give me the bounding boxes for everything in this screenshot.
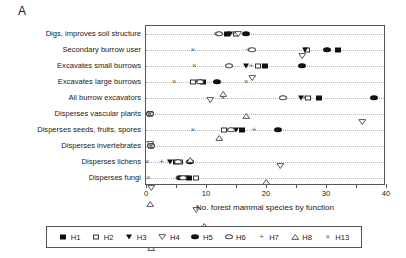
legend-marker-H8	[290, 233, 299, 241]
marker-filled-down-triangle	[126, 235, 132, 240]
data-point-H4	[298, 53, 306, 59]
data-point-H1	[316, 96, 322, 101]
legend-label: H5	[203, 233, 213, 242]
legend-label: H3	[137, 233, 147, 242]
marker-open-square	[93, 235, 99, 240]
gridline-row	[146, 50, 384, 51]
legend-label: H2	[104, 233, 114, 242]
data-point-H7: +	[245, 47, 252, 54]
marker-filled-circle	[191, 234, 199, 239]
legend-item-H3[interactable]: H3	[125, 233, 147, 242]
category-label: Disperses seeds, fruits, spores	[37, 126, 141, 134]
gridline-row	[146, 98, 384, 99]
data-point-H7: +	[301, 95, 308, 102]
legend-marker-H7: +	[257, 233, 266, 241]
data-point-H13: ×	[191, 63, 198, 70]
data-point-H7: +	[248, 63, 255, 70]
legend-label: H4	[170, 233, 180, 242]
data-point-H3	[302, 48, 308, 53]
data-point-H8	[242, 113, 250, 119]
data-point-H2	[221, 128, 227, 133]
legend-marker-H3	[125, 233, 134, 241]
legend-marker-H6	[224, 233, 233, 241]
data-point-H8	[262, 179, 270, 185]
data-point-H5	[213, 79, 221, 84]
chart-legend: H1H2H3H4H5H6+H7H8×H13	[46, 226, 362, 248]
legend-item-H1[interactable]: H1	[59, 233, 81, 242]
gridline-row	[146, 82, 384, 83]
legend-label: H6	[236, 233, 246, 242]
data-point-H5	[370, 95, 378, 100]
category-label: All burrow excavators	[68, 94, 141, 102]
gridline-row	[146, 146, 384, 147]
category-label: Disperses lichens	[81, 158, 141, 166]
scatter-chart: Digs, improves soil structureSecondary b…	[0, 0, 406, 258]
legend-label: H1	[71, 233, 81, 242]
data-point-H13: ×	[146, 111, 153, 118]
legend-marker-H13: ×	[323, 233, 332, 241]
x-axis-tick	[356, 184, 357, 188]
data-point-H13: ×	[219, 95, 226, 102]
data-point-H4	[358, 119, 366, 125]
data-point-H8	[187, 157, 195, 163]
marker-open-down-triangle	[159, 234, 167, 240]
marker-open-up-triangle	[291, 234, 299, 240]
data-point-H8	[215, 135, 223, 141]
data-point-H13: ×	[171, 79, 178, 86]
data-point-H5	[242, 31, 250, 36]
data-point-H3	[167, 160, 173, 165]
legend-marker-H1	[59, 233, 68, 241]
x-axis-tick	[176, 184, 177, 188]
marker-plus: +	[258, 234, 265, 241]
marker-open-circle	[225, 234, 233, 239]
data-point-H7: +	[158, 159, 165, 166]
data-point-H4	[206, 97, 214, 103]
marker-filled-square	[60, 235, 66, 240]
data-point-H7: +	[193, 79, 200, 86]
legend-item-H5[interactable]: H5	[191, 233, 213, 242]
category-label: Disperses invertebrates	[61, 142, 141, 150]
data-point-H1	[262, 64, 268, 69]
category-label: Disperses fungi	[89, 174, 141, 182]
legend-item-H13[interactable]: ×H13	[323, 233, 349, 242]
legend-item-H6[interactable]: H6	[224, 233, 246, 242]
category-label: Excavates large burrows	[58, 78, 141, 86]
data-point-H7: +	[251, 127, 258, 134]
legend-marker-H5	[191, 233, 200, 241]
x-axis-tick	[386, 184, 387, 188]
data-point-H1	[335, 48, 341, 53]
gridline-row	[146, 114, 384, 115]
x-axis-tick	[236, 184, 237, 188]
category-label: Digs, improves soil structure	[46, 30, 141, 38]
legend-item-H7[interactable]: +H7	[257, 233, 279, 242]
legend-marker-H4	[158, 233, 167, 241]
x-axis-tick	[296, 184, 297, 188]
legend-label: H7	[269, 233, 279, 242]
data-point-H4	[277, 163, 285, 169]
x-axis-label: No. forest mammal species by function	[145, 203, 385, 212]
legend-item-H2[interactable]: H2	[92, 233, 114, 242]
data-point-H2	[193, 176, 199, 181]
data-point-H5	[298, 63, 306, 68]
plot-frame: Digs, improves soil structureSecondary b…	[145, 25, 385, 185]
legend-item-H8[interactable]: H8	[290, 233, 312, 242]
x-axis-tick-label: 10	[202, 189, 210, 198]
data-point-H13: ×	[189, 47, 196, 54]
gridline-row	[146, 130, 384, 131]
gridline-row	[146, 34, 384, 35]
category-label: Disperses vascular plants	[54, 110, 141, 118]
x-axis-tick-label: 30	[322, 189, 330, 198]
legend-label: H8	[302, 233, 312, 242]
data-point-H13: ×	[147, 143, 154, 150]
data-point-H6	[225, 63, 233, 68]
data-point-H4	[147, 185, 155, 191]
data-point-H13: ×	[144, 159, 151, 166]
category-label: Secondary burrow user	[62, 46, 141, 54]
x-axis-tick	[326, 184, 327, 188]
x-axis-tick	[206, 184, 207, 188]
legend-item-H4[interactable]: H4	[158, 233, 180, 242]
data-point-H1	[239, 128, 245, 133]
legend-marker-H2	[92, 233, 101, 241]
data-point-H13: ×	[189, 127, 196, 134]
marker-cross: ×	[324, 234, 331, 241]
